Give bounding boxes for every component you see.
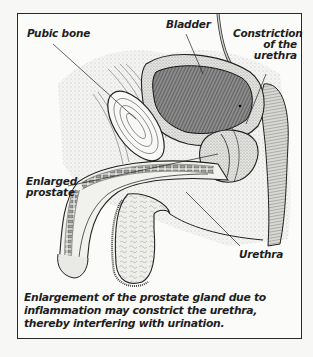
- scrotum: [115, 194, 170, 284]
- label-pubic-bone: Pubic bone: [27, 28, 90, 39]
- label-constriction: Constriction of the urethra: [233, 28, 297, 61]
- label-enlarged-prostate: Enlarged prostate: [26, 176, 77, 198]
- figure-frame: Pubic bone Bladder Constriction of the u…: [17, 13, 302, 339]
- label-urethra: Urethra: [239, 249, 283, 260]
- label-bladder: Bladder: [166, 19, 211, 30]
- figure-caption: Enlargement of the prostate gland due to…: [24, 291, 300, 330]
